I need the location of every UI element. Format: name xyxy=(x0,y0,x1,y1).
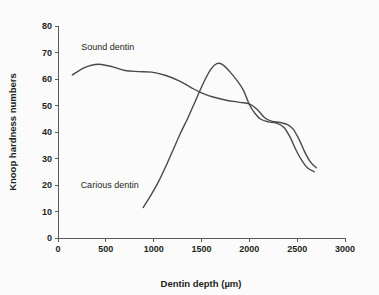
y-tick-label: 80 xyxy=(42,21,52,31)
y-tick-label: 0 xyxy=(47,233,52,243)
knoop-hardness-line-chart: 0102030405060708005001000150020002500300… xyxy=(0,0,379,295)
y-tick-label: 70 xyxy=(42,48,52,58)
y-tick-label: 30 xyxy=(42,154,52,164)
y-tick-label: 40 xyxy=(42,127,52,137)
series-label-sound-dentin: Sound dentin xyxy=(81,42,134,52)
x-tick-label: 0 xyxy=(55,244,60,254)
x-tick-label: 500 xyxy=(98,244,113,254)
y-tick-label: 20 xyxy=(42,180,52,190)
x-axis-title: Dentin depth (µm) xyxy=(161,278,242,289)
x-tick-label: 1500 xyxy=(191,244,211,254)
x-tick-label: 2000 xyxy=(239,244,259,254)
y-tick-label: 50 xyxy=(42,101,52,111)
y-tick-label: 60 xyxy=(42,74,52,84)
chart-container: 0102030405060708005001000150020002500300… xyxy=(0,0,379,295)
x-tick-label: 2500 xyxy=(287,244,307,254)
y-axis-title: Knoop hardness numbers xyxy=(7,73,18,191)
x-tick-label: 1000 xyxy=(144,244,164,254)
y-tick-label: 10 xyxy=(42,207,52,217)
x-tick-label: 3000 xyxy=(335,244,355,254)
series-label-carious-dentin: Carious dentin xyxy=(81,180,139,190)
